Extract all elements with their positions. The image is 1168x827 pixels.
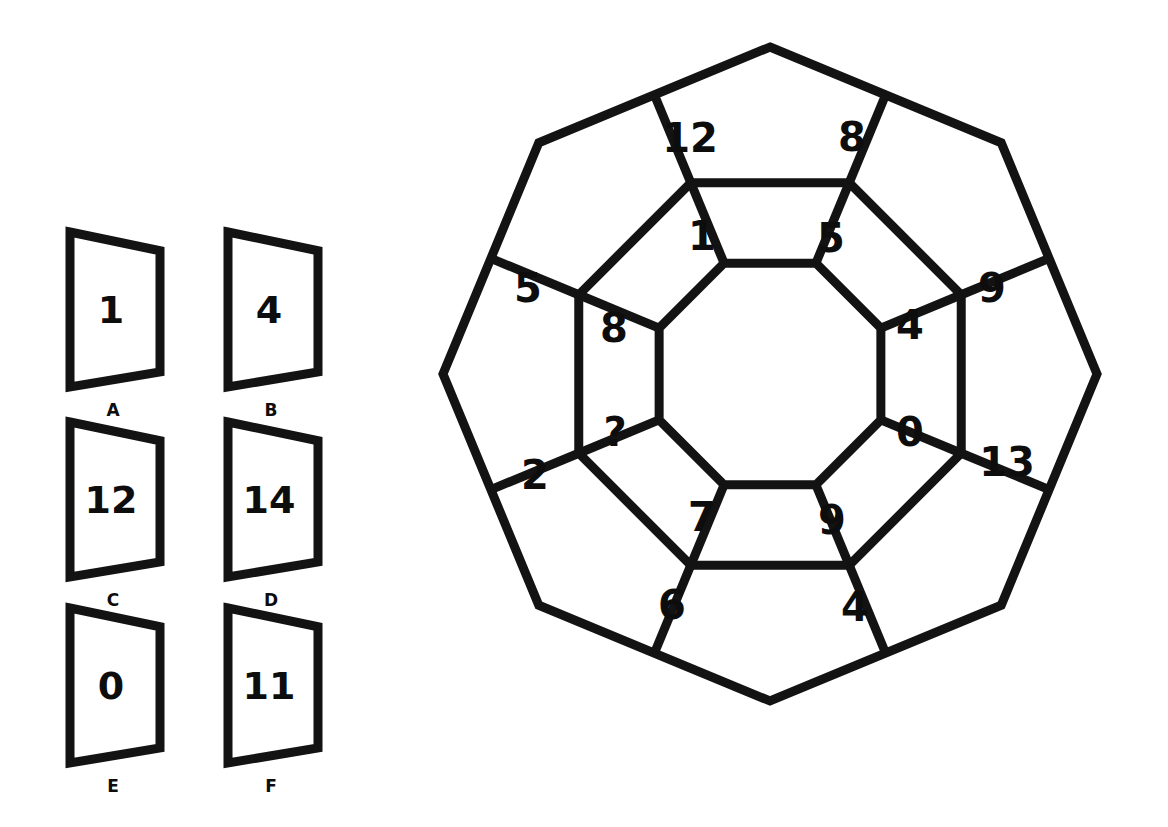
cell-inner-bottom-left: 7 xyxy=(688,494,716,540)
option-tile-d[interactable]: 14D xyxy=(228,422,318,610)
cell-outer-top-right: 8 xyxy=(838,114,866,160)
cell-outer-left-lower: 2 xyxy=(521,452,549,498)
inner-octagon-hole xyxy=(659,263,881,485)
option-value-e: 0 xyxy=(98,664,124,708)
option-tile-a[interactable]: 1A xyxy=(70,232,160,420)
cell-outer-top-left: 12 xyxy=(662,115,718,161)
option-value-f: 11 xyxy=(243,664,296,708)
option-value-d: 14 xyxy=(243,478,296,522)
cell-inner-bottom-right: 9 xyxy=(818,497,846,543)
option-letter-d: D xyxy=(264,590,278,610)
option-letter-f: F xyxy=(265,776,277,796)
option-value-b: 4 xyxy=(256,288,282,332)
cell-outer-right-upper: 9 xyxy=(978,265,1006,311)
cell-outer-bottom-left: 6 xyxy=(658,582,686,628)
cell-inner-left-upper: 8 xyxy=(600,305,628,351)
cell-inner-right-lower: 0 xyxy=(896,409,924,455)
option-letter-c: C xyxy=(107,590,119,610)
option-tile-f[interactable]: 11F xyxy=(228,608,318,796)
cell-outer-right-lower: 13 xyxy=(979,439,1035,485)
option-tile-e[interactable]: 0E xyxy=(70,608,160,796)
puzzle-canvas: 1289134625154097?8 1A4B12C14D0E11F xyxy=(0,0,1168,827)
outer-octagon-outline xyxy=(443,47,1097,701)
cell-inner-left-lower: ? xyxy=(603,409,626,455)
cell-inner-top-left: 1 xyxy=(688,213,716,259)
octagon-diagram: 1289134625154097?8 xyxy=(443,47,1097,701)
puzzle-figure: 1289134625154097?8 1A4B12C14D0E11F xyxy=(0,0,1168,827)
cell-inner-right-upper: 4 xyxy=(896,302,924,348)
option-letter-a: A xyxy=(106,400,120,420)
answer-options: 1A4B12C14D0E11F xyxy=(70,232,318,796)
option-tile-c[interactable]: 12C xyxy=(70,422,160,610)
cell-outer-bottom-right: 4 xyxy=(841,584,869,630)
option-letter-b: B xyxy=(265,400,278,420)
cell-outer-left-upper: 5 xyxy=(514,265,542,311)
option-value-a: 1 xyxy=(98,288,124,332)
option-tile-b[interactable]: 4B xyxy=(228,232,318,420)
octagon-cell-values: 1289134625154097?8 xyxy=(514,114,1035,630)
option-value-c: 12 xyxy=(85,478,138,522)
middle-octagon-outline xyxy=(579,183,961,565)
option-letter-e: E xyxy=(107,776,119,796)
cell-inner-top-right: 5 xyxy=(817,215,845,261)
